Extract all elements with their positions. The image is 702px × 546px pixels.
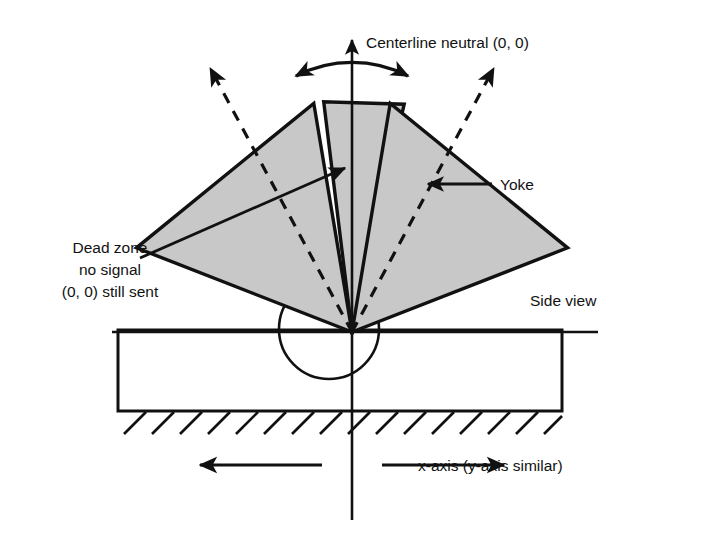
dead-zone-label-line-1: Dead zone [73, 239, 148, 256]
dead-zone-label-line-3: (0, 0) still sent [62, 283, 159, 300]
x-axis-label: x-axis (y-axis similar) [418, 457, 563, 474]
base-block [118, 330, 562, 411]
centerline-neutral-label: Centerline neutral (0, 0) [366, 34, 529, 51]
dead-zone-label: Dead zone no signal (0, 0) still sent [62, 239, 159, 300]
ground-hatching [124, 412, 562, 434]
base-block-group [118, 330, 562, 434]
side-view-label: Side view [530, 292, 597, 309]
yoke-deflection-diagram: Centerline neutral (0, 0) Yoke Side view… [0, 0, 702, 546]
dead-zone-label-line-2: no signal [79, 261, 141, 278]
diagram-root: Centerline neutral (0, 0) Yoke Side view… [0, 0, 702, 546]
yoke-label: Yoke [500, 176, 534, 193]
